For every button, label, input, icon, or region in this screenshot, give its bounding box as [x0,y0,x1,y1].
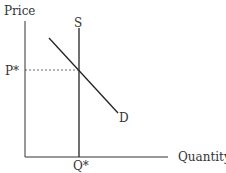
supply-demand-graph [0,0,226,173]
demand-label: D [119,112,129,124]
price-equilibrium-label: P* [5,65,19,77]
supply-label: S [74,17,82,29]
x-axis-label: Quantity [178,151,226,163]
y-axis-label: Price [4,5,35,17]
demand-curve [49,38,118,113]
quantity-equilibrium-label: Q* [73,160,89,172]
